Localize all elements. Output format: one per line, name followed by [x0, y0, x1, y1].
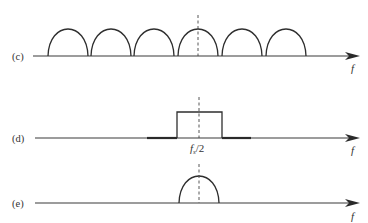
panel-c-label: (c) [12, 51, 24, 63]
panel-e-label: (e) [12, 198, 24, 210]
panel-c-lobe-3 [134, 29, 174, 56]
panel-c: (c) f [12, 15, 360, 74]
panel-e: (e) f [12, 164, 360, 222]
panel-d-passband-rect [177, 112, 222, 138]
panel-e-axis-label: f [351, 210, 356, 222]
panel-d-center-label: fs/2 [190, 142, 204, 156]
panel-d-label: (d) [12, 133, 25, 145]
panel-c-axis-label: f [351, 62, 356, 74]
panel-d: (d) f fs/2 [12, 97, 360, 156]
panel-c-lobe-2 [91, 29, 131, 56]
panel-c-lobe-1 [48, 29, 88, 56]
panel-d-axis-label: f [351, 144, 356, 156]
spectrum-diagram: (c) f (d) f fs/2 (e) f [0, 0, 368, 223]
panel-c-lobe-5 [222, 29, 262, 56]
panel-c-lobe-6 [266, 29, 306, 56]
